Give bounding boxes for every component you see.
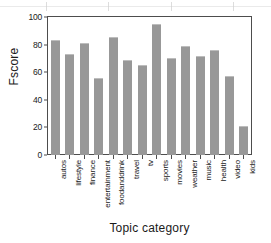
x-label-slot: autos <box>48 160 62 220</box>
x-tick-mark <box>127 155 128 159</box>
x-label-slot: sports <box>150 160 164 220</box>
y-tick-mark <box>44 99 47 100</box>
x-tick-mark <box>243 155 244 159</box>
x-axis-labels: autoslifestylefinanceentertainmentfoodan… <box>48 160 251 220</box>
x-tick-mark <box>156 155 157 159</box>
bar <box>210 50 219 155</box>
bar-slot <box>48 17 62 155</box>
bar <box>152 24 161 155</box>
x-axis-title: Topic category <box>47 222 252 235</box>
bar <box>181 46 190 155</box>
y-tick-mark <box>44 127 47 128</box>
bar-slot <box>150 17 164 155</box>
scan-artifact-tick <box>233 2 234 11</box>
bar <box>239 126 248 155</box>
y-tick-label: 20 <box>33 123 42 132</box>
x-tick-mark <box>200 155 201 159</box>
bar <box>94 78 103 155</box>
bar-slot <box>106 17 120 155</box>
bar-slot <box>63 17 77 155</box>
x-label-slot: kids <box>237 160 251 220</box>
bar <box>138 65 147 155</box>
x-label-slot: health <box>208 160 222 220</box>
bar <box>51 40 60 155</box>
x-label-slot: tv <box>135 160 149 220</box>
x-label-slot: weather <box>179 160 193 220</box>
bar-slot <box>222 17 236 155</box>
bar <box>196 56 205 155</box>
x-tick-mark <box>98 155 99 159</box>
bar-slot <box>92 17 106 155</box>
x-tick-mark <box>113 155 114 159</box>
y-tick-mark <box>44 17 47 18</box>
scan-artifact-tick <box>108 2 109 11</box>
bar-slot <box>179 17 193 155</box>
x-tick-mark <box>185 155 186 159</box>
y-tick-label: 80 <box>33 40 42 49</box>
bar-chart-figure: 020406080100 Fscore autoslifestylefinanc… <box>0 0 271 243</box>
bar-slot <box>208 17 222 155</box>
x-label-slot: lifestyle <box>63 160 77 220</box>
bar-series <box>48 17 251 155</box>
bar <box>167 58 176 155</box>
x-label-slot: finance <box>77 160 91 220</box>
y-tick-label: 60 <box>33 68 42 77</box>
x-label-slot: travel <box>121 160 135 220</box>
bar-slot <box>121 17 135 155</box>
scan-artifact-tick <box>171 2 172 11</box>
bar-slot <box>237 17 251 155</box>
x-tick-label: kids <box>248 160 257 174</box>
x-label-slot: video <box>222 160 236 220</box>
y-tick-label: 0 <box>37 151 42 160</box>
bar <box>109 37 118 155</box>
bar <box>225 76 234 155</box>
x-label-slot: movies <box>164 160 178 220</box>
bar-slot <box>77 17 91 155</box>
x-tick-mark <box>214 155 215 159</box>
x-tick-mark <box>84 155 85 159</box>
x-label-slot: entertainment <box>92 160 106 220</box>
y-tick-label: 100 <box>28 13 42 22</box>
x-tick-mark <box>142 155 143 159</box>
x-label-slot: foodanddrink <box>106 160 120 220</box>
x-tick-mark <box>55 155 56 159</box>
bar <box>65 54 74 155</box>
bar-slot <box>135 17 149 155</box>
bar <box>123 60 132 155</box>
x-tick-mark <box>229 155 230 159</box>
bar-slot <box>193 17 207 155</box>
y-tick-mark <box>44 44 47 45</box>
y-tick-mark <box>44 155 47 156</box>
y-axis-title: Fscore <box>8 27 21 107</box>
bar-slot <box>164 17 178 155</box>
bar <box>80 43 89 155</box>
y-tick-label: 40 <box>33 95 42 104</box>
y-tick-mark <box>44 72 47 73</box>
x-tick-mark <box>171 155 172 159</box>
x-label-slot: music <box>193 160 207 220</box>
x-tick-mark <box>69 155 70 159</box>
